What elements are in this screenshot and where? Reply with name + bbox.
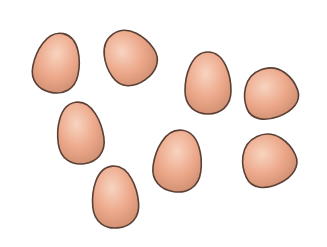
egg [233, 125, 304, 195]
egg [28, 29, 85, 97]
egg [236, 60, 304, 125]
egg [92, 20, 165, 95]
egg [150, 127, 206, 195]
egg [89, 164, 140, 230]
egg [53, 99, 107, 167]
eggs-illustration [0, 0, 327, 247]
egg [185, 52, 231, 114]
